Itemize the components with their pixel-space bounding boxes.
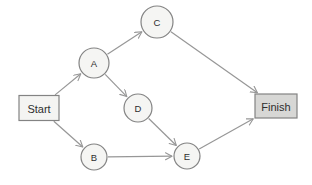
edge-C-finish [171,32,258,93]
edge-E-finish [199,119,253,149]
edge-A-D [105,74,127,96]
node-label-start: Start [27,103,50,115]
node-label-E: E [184,151,190,162]
node-label-B: B [91,152,97,163]
node-start: Start [19,96,59,121]
node-finish: Finish [255,94,297,118]
edge-D-E [149,119,177,146]
edge-start-B [54,121,83,147]
node-C: C [141,6,173,38]
node-A: A [79,48,109,78]
network-diagram: StartABCDEFinish [0,0,312,185]
node-label-C: C [154,17,161,28]
node-D: D [124,94,152,122]
node-label-D: D [135,103,142,114]
edge-start-A [55,74,81,95]
node-B: B [81,144,107,170]
edge-B-E [108,156,172,157]
edge-A-C [107,32,141,55]
node-label-A: A [91,58,98,69]
node-label-finish: Finish [261,101,290,113]
node-E: E [174,143,200,169]
network-diagram-svg: StartABCDEFinish [0,0,312,185]
